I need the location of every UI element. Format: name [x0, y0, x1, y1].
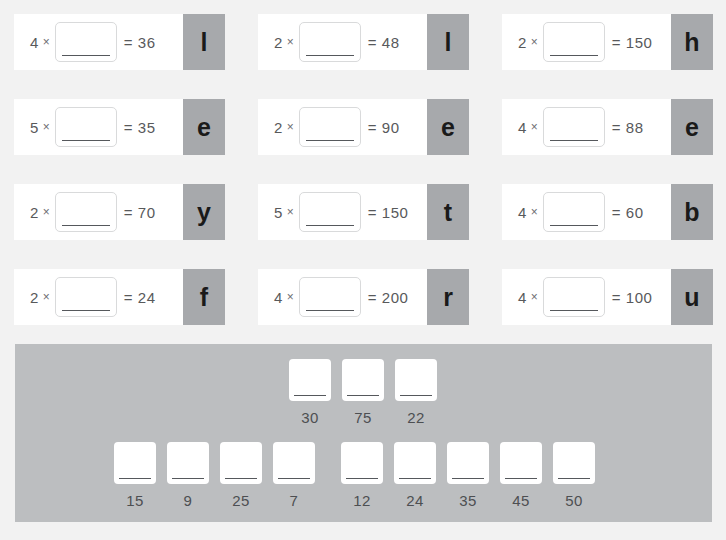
- answer-drop-slot[interactable]: [299, 22, 361, 62]
- answer-drop-slot[interactable]: [299, 192, 361, 232]
- answer-tile-label: 7: [290, 493, 299, 508]
- equation-result: = 88: [612, 120, 644, 135]
- equation-body: 2 × = 48: [258, 14, 427, 70]
- answer-tile-label: 30: [301, 410, 319, 425]
- answer-tile-label: 24: [406, 493, 424, 508]
- answer-bank-item[interactable]: 45: [500, 442, 542, 508]
- equation-card[interactable]: 2 × = 150 h: [502, 14, 713, 70]
- letter-tile: l: [183, 14, 225, 70]
- equation-card[interactable]: 5 × = 150 t: [258, 184, 469, 240]
- answer-bank-group: 15 9 25 7: [114, 442, 315, 508]
- equation-body: 2 × = 70: [14, 184, 183, 240]
- answer-drop-slot[interactable]: [55, 277, 117, 317]
- answer-drop-slot[interactable]: [55, 22, 117, 62]
- answer-bank-item[interactable]: 15: [114, 442, 156, 508]
- equation-factor: 4: [518, 120, 527, 135]
- equation-result: = 70: [124, 205, 156, 220]
- equation-body: 2 × = 90: [258, 99, 427, 155]
- letter-tile: r: [427, 269, 469, 325]
- answer-tile[interactable]: [220, 442, 262, 484]
- answer-drop-slot[interactable]: [543, 192, 605, 232]
- answer-bank-item[interactable]: 12: [341, 442, 383, 508]
- answer-bank-item[interactable]: 25: [220, 442, 262, 508]
- equation-factor: 2: [518, 35, 527, 50]
- answer-tile[interactable]: [394, 442, 436, 484]
- answer-bank-item[interactable]: 75: [342, 359, 384, 425]
- equation-factor: 5: [30, 120, 39, 135]
- equation-body: 4 × = 100: [502, 269, 671, 325]
- answer-bank-item[interactable]: 9: [167, 442, 209, 508]
- answer-tile-label: 50: [565, 493, 583, 508]
- letter-tile: e: [183, 99, 225, 155]
- answer-tile-label: 22: [407, 410, 425, 425]
- equation-card[interactable]: 2 × = 70 y: [14, 184, 225, 240]
- equation-result: = 150: [612, 35, 652, 50]
- equation-card[interactable]: 5 × = 35 e: [14, 99, 225, 155]
- answer-tile-label: 9: [184, 493, 193, 508]
- answer-bank-item[interactable]: 22: [395, 359, 437, 425]
- answer-tile[interactable]: [273, 442, 315, 484]
- letter-tile: u: [671, 269, 713, 325]
- answer-tile-label: 25: [232, 493, 250, 508]
- equation-factor: 2: [274, 120, 283, 135]
- equation-card[interactable]: 4 × = 88 e: [502, 99, 713, 155]
- equation-body: 4 × = 200: [258, 269, 427, 325]
- equation-body: 5 × = 150: [258, 184, 427, 240]
- equation-body: 2 × = 150: [502, 14, 671, 70]
- answer-tile[interactable]: [167, 442, 209, 484]
- answer-drop-slot[interactable]: [543, 277, 605, 317]
- multiply-icon: ×: [43, 291, 50, 303]
- multiply-icon: ×: [531, 121, 538, 133]
- answer-drop-slot[interactable]: [299, 107, 361, 147]
- equation-body: 4 × = 88: [502, 99, 671, 155]
- answer-drop-slot[interactable]: [543, 107, 605, 147]
- answer-tile[interactable]: [341, 442, 383, 484]
- answer-tile[interactable]: [395, 359, 437, 401]
- answer-bank-item[interactable]: 24: [394, 442, 436, 508]
- multiply-icon: ×: [531, 291, 538, 303]
- answer-bank-row-top: 30 75 22: [289, 359, 437, 425]
- answer-bank-group: 12 24 35 45 50: [341, 442, 595, 508]
- letter-tile: e: [427, 99, 469, 155]
- equation-grid: 4 × = 36 l 2 × = 48 l 2 × = 150 h 5 × = …: [14, 14, 712, 325]
- answer-bank-item[interactable]: 7: [273, 442, 315, 508]
- answer-tile[interactable]: [289, 359, 331, 401]
- answer-bank-item[interactable]: 35: [447, 442, 489, 508]
- equation-factor: 2: [30, 290, 39, 305]
- equation-card[interactable]: 2 × = 24 f: [14, 269, 225, 325]
- equation-body: 4 × = 36: [14, 14, 183, 70]
- answer-drop-slot[interactable]: [55, 107, 117, 147]
- answer-drop-slot[interactable]: [543, 22, 605, 62]
- equation-card[interactable]: 2 × = 90 e: [258, 99, 469, 155]
- equation-card[interactable]: 2 × = 48 l: [258, 14, 469, 70]
- equation-factor: 4: [30, 35, 39, 50]
- answer-bank-item[interactable]: 50: [553, 442, 595, 508]
- letter-tile: e: [671, 99, 713, 155]
- answer-drop-slot[interactable]: [299, 277, 361, 317]
- equation-card[interactable]: 4 × = 100 u: [502, 269, 713, 325]
- answer-tile[interactable]: [342, 359, 384, 401]
- answer-bank-item[interactable]: 30: [289, 359, 331, 425]
- equation-factor: 2: [274, 35, 283, 50]
- answer-bank-panel: 30 75 22 15 9 25: [15, 344, 712, 522]
- answer-tile-label: 15: [126, 493, 144, 508]
- equation-result: = 90: [368, 120, 400, 135]
- letter-tile: b: [671, 184, 713, 240]
- equation-result: = 100: [612, 290, 652, 305]
- multiply-icon: ×: [287, 291, 294, 303]
- equation-card[interactable]: 4 × = 60 b: [502, 184, 713, 240]
- answer-tile[interactable]: [553, 442, 595, 484]
- answer-bank-group: 30 75 22: [289, 359, 437, 425]
- multiply-icon: ×: [287, 121, 294, 133]
- multiply-icon: ×: [287, 206, 294, 218]
- equation-card[interactable]: 4 × = 36 l: [14, 14, 225, 70]
- answer-drop-slot[interactable]: [55, 192, 117, 232]
- equation-card[interactable]: 4 × = 200 r: [258, 269, 469, 325]
- letter-tile: t: [427, 184, 469, 240]
- answer-tile[interactable]: [500, 442, 542, 484]
- letter-tile: h: [671, 14, 713, 70]
- letter-tile: f: [183, 269, 225, 325]
- answer-tile[interactable]: [114, 442, 156, 484]
- answer-tile[interactable]: [447, 442, 489, 484]
- equation-body: 2 × = 24: [14, 269, 183, 325]
